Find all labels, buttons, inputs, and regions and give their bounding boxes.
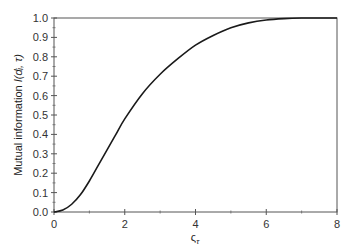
y-tick-label: 0.4 <box>33 128 48 140</box>
x-tick-label: 4 <box>192 218 198 230</box>
y-axis: 0.00.10.20.30.40.50.60.70.80.91.0 <box>33 12 57 218</box>
x-tick-label: 6 <box>263 218 269 230</box>
mutual-information-curve <box>54 18 337 212</box>
y-tick-label: 0.2 <box>33 167 48 179</box>
y-tick-label: 0.6 <box>33 90 48 102</box>
y-tick-label: 0.8 <box>33 51 48 63</box>
y-tick-label: 0.0 <box>33 206 48 218</box>
x-tick-label: 2 <box>122 218 128 230</box>
x-axis-label: ςτ <box>191 231 200 246</box>
y-axis-label-math: I(dᵢ, τ) <box>12 54 24 82</box>
y-axis-label-text: Mutual information <box>12 82 24 176</box>
y-tick-label: 0.7 <box>33 70 48 82</box>
plot-frame <box>54 18 337 212</box>
x-axis-label-sub: τ <box>196 237 200 246</box>
y-tick-label: 0.3 <box>33 148 48 160</box>
y-tick-label: 0.1 <box>33 187 48 199</box>
y-axis-label: Mutual information I(dᵢ, τ) <box>12 54 24 176</box>
plot-border <box>54 18 337 212</box>
y-tick-label: 0.5 <box>33 109 48 121</box>
x-tick-label: 0 <box>51 218 57 230</box>
y-tick-label: 0.9 <box>33 31 48 43</box>
x-tick-label: 8 <box>334 218 340 230</box>
y-tick-label: 1.0 <box>33 12 48 24</box>
chart: 0.00.10.20.30.40.50.60.70.80.91.0 02468 … <box>0 0 349 252</box>
